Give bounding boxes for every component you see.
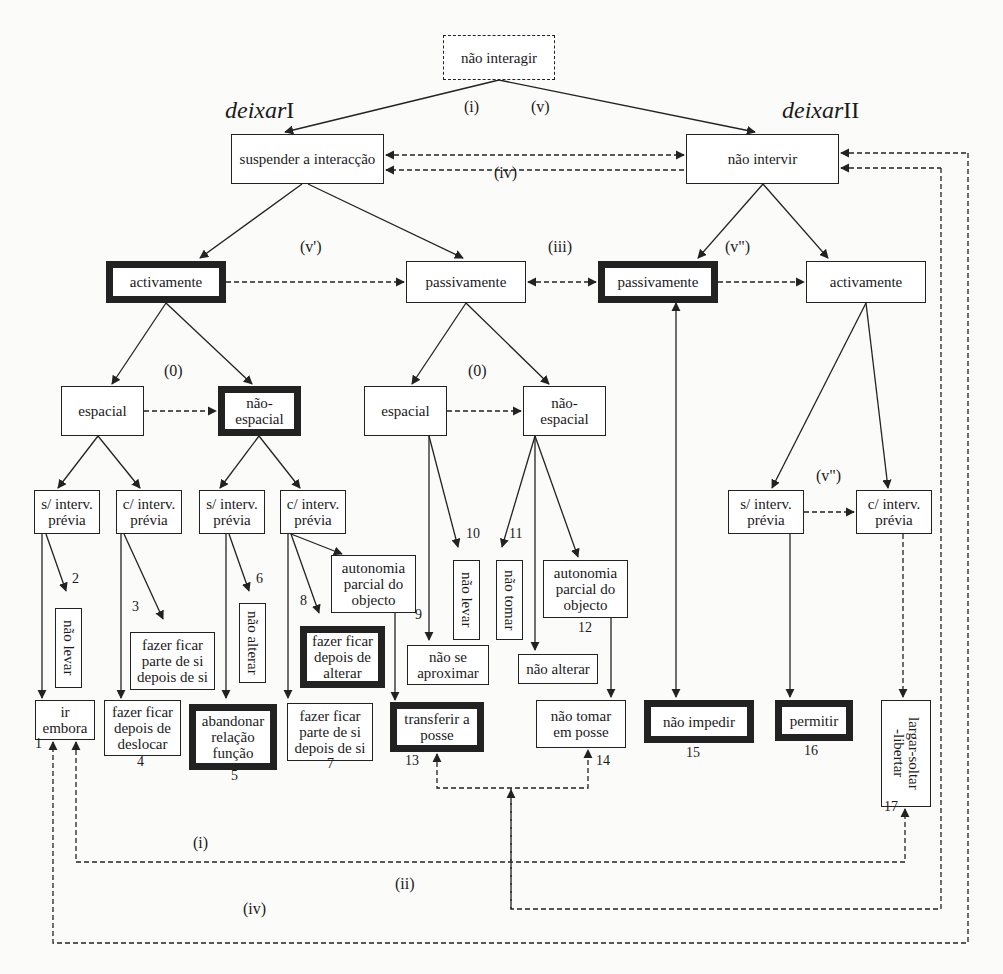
edge-label: (v') (300, 238, 322, 256)
node-fazer-ficar-alterar: fazer ficar depois de alterar (300, 626, 385, 688)
leaf-number: 13 (405, 753, 419, 769)
deixar-ii-italic: deixar (782, 97, 843, 123)
node-nao-levar-1: não levar (55, 608, 82, 688)
edge-label: (v) (531, 98, 550, 116)
deixar-i-title: deixarI (225, 97, 294, 124)
deixar-ii-numeral: II (843, 97, 859, 123)
node-nao-impedir: não impedir (644, 700, 754, 743)
node-fazer-ficar-deslocar: fazer ficar depois de deslocar (104, 700, 181, 756)
node-ir-embora: ir embora (35, 700, 95, 740)
deixar-i-numeral: I (286, 97, 294, 123)
node-abandonar: abandonar relação função (189, 704, 277, 770)
node-nao-interagir: não interagir (443, 35, 555, 80)
node-activamente-1: activamente (106, 261, 226, 303)
node-permitir: permitir (775, 700, 853, 741)
node-fazer-ficar-2: fazer ficar parte de si depois de si (287, 703, 373, 761)
leaf-number: 9 (415, 607, 422, 623)
node-espacial-1: espacial (61, 386, 144, 436)
node-nao-espacial-2: não- espacial (523, 386, 606, 436)
node-autonomia-2: autonomia parcial do objecto (543, 560, 628, 618)
node-passivamente-2: passivamente (598, 261, 718, 303)
diagram-edges (0, 0, 1003, 974)
leaf-number: 1 (35, 736, 42, 752)
node-transferir: transferir a posse (390, 702, 484, 752)
leaf-number: 3 (132, 599, 139, 615)
node-s-interv-1: s/ interv. prévia (34, 490, 100, 534)
leaf-number: 17 (884, 799, 898, 815)
leaf-number: 15 (686, 745, 700, 761)
edge-label: (0) (164, 362, 183, 380)
node-nao-espacial-1: não- espacial (218, 386, 301, 436)
edge-label: (v") (816, 467, 841, 485)
node-nao-levar-2: não levar (453, 560, 480, 640)
node-largar: largar-soltar -libertar (881, 700, 931, 807)
leaf-number: 2 (72, 571, 79, 587)
edge-label: (iii) (548, 238, 572, 256)
node-autonomia-1: autonomia parcial do objecto (331, 555, 416, 613)
diagram-stage: deixarI deixarII não interagirsuspender … (0, 0, 1003, 974)
node-activamente-2: activamente (806, 261, 926, 303)
leaf-number: 6 (256, 571, 263, 587)
node-c-interv-1: c/ interv. prévia (116, 490, 182, 534)
leaf-number: 5 (231, 768, 238, 784)
node-fazer-ficar-1: fazer ficar parte de si depois de si (130, 632, 215, 690)
node-nao-tomar: não tomar (496, 560, 523, 640)
node-espacial-2: espacial (364, 386, 447, 436)
edge-label: (i) (464, 98, 479, 116)
node-s-interv-2: s/ interv. prévia (199, 490, 265, 534)
edge-label: (iv) (494, 164, 517, 182)
node-nao-alterar-2: não alterar (518, 654, 598, 684)
node-nao-tomar-posse: não tomar em posse (536, 700, 626, 748)
leaf-number: 10 (466, 526, 480, 542)
leaf-number: 16 (804, 743, 818, 759)
leaf-number: 7 (327, 756, 334, 772)
edge-label: (ii) (395, 875, 415, 893)
node-c-interv-3: c/ interv. prévia (856, 490, 932, 534)
deixar-i-italic: deixar (225, 97, 286, 123)
node-suspender: suspender a interacção (231, 134, 384, 184)
leaf-number: 12 (578, 620, 592, 636)
edge-label: (0) (468, 362, 487, 380)
edge-label: (iv) (243, 900, 266, 918)
leaf-number: 8 (300, 593, 307, 609)
edge-label: (i) (193, 834, 208, 852)
node-c-interv-2: c/ interv. prévia (280, 490, 346, 534)
leaf-number: 4 (137, 754, 144, 770)
deixar-ii-title: deixarII (782, 97, 859, 124)
leaf-number: 14 (596, 753, 610, 769)
leaf-number: 11 (509, 526, 522, 542)
node-s-interv-3: s/ interv. prévia (728, 490, 804, 534)
node-nao-se-aproximar: não se aproximar (407, 645, 489, 685)
node-passivamente-1: passivamente (406, 261, 526, 303)
node-nao-intervir: não intervir (686, 134, 839, 184)
edge-label: (v") (725, 238, 750, 256)
node-nao-alterar-1: não alterar (239, 603, 266, 683)
